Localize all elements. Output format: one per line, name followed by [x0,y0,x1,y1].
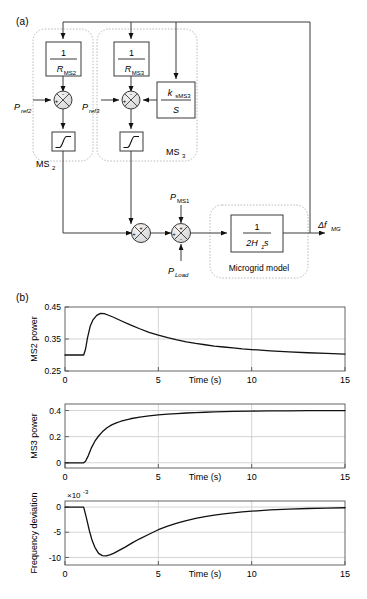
x-tick-label: 10 [247,375,257,385]
x-tick-label: 5 [156,472,161,482]
y-axis-label: MS3 power [29,413,39,459]
microgrid-denominator: 2H [245,238,258,248]
sum-balance-sign-bottom: - [180,236,182,242]
sum-junction-generation: + + [132,224,151,243]
figure-container: (a) (b) 1 R MS2 [0,0,367,599]
y-tick-label: 0 [56,458,61,468]
x-tick-label: 5 [156,569,161,579]
block-diagram: 1 R MS2 1 R MS3 k sMS3 S P ref2 P ref3 [0,0,367,290]
sum-gen-sign-top: + [139,225,143,231]
signal-pload-sub: Load [175,272,189,278]
y-axis-exponent-superscript: -3 [83,489,89,495]
droop-ms2-numerator: 1 [61,48,66,58]
x-axis-label: Time (s) [189,569,222,579]
x-tick-label: 0 [62,375,67,385]
y-axis-label: Frequency deviation [29,492,39,573]
droop-ms3-denominator: R [125,64,132,74]
y-tick-label: 0.4 [49,406,61,416]
microgrid-denominator-tail: s [264,238,269,248]
signal-output-df-sub: MG [331,226,341,232]
group-label-ms3: MS [166,147,180,157]
sum-junction-ms2: - + [54,91,72,109]
secondary-numerator-sub: sMS3 [175,93,191,99]
x-tick-label: 10 [247,569,257,579]
plot-frame [65,404,345,468]
plots-panel: 0.250.350.45051015Time (s)MS2 power00.20… [0,289,367,599]
y-tick-label: 0.35 [44,334,61,344]
chart-2: 00.20.4051015Time (s)MS3 power [29,404,350,482]
signal-pms1: P [170,192,176,202]
y-axis-label: MS2 power [29,316,39,362]
signal-pms1-sub: MS1 [177,198,190,204]
signal-pref3-sub: ref3 [89,108,100,114]
droop-ms3-numerator: 1 [129,48,134,58]
sum-balance-sign-top: + [179,225,183,231]
x-tick-label: 10 [247,472,257,482]
saturation-block-ms3 [120,132,143,151]
group-label-ms2-sub: 2 [52,165,56,171]
chart-3: 0-5-10051015Time (s)Frequency deviation×… [29,489,350,579]
signal-pref3: P [82,102,88,112]
signal-pref2-sub: ref2 [21,108,32,114]
droop-ms2-denominator-sub: MS2 [64,70,77,76]
x-tick-label: 0 [62,472,67,482]
sum-ms2-sign-top: - [62,91,64,97]
x-axis-label: Time (s) [189,375,222,385]
microgrid-caption: Microgrid model [229,263,290,273]
chart-1: 0.250.350.45051015Time (s)MS2 power [29,302,350,385]
signal-pref2: P [14,102,20,112]
x-tick-label: 15 [340,375,350,385]
saturation-block-ms2 [52,132,75,151]
data-series-line [65,507,345,556]
droop-ms3-denominator-sub: MS3 [132,70,145,76]
secondary-numerator: k [168,88,173,98]
y-tick-label: -5 [53,527,61,537]
signal-output-df: Δf [317,220,328,230]
sum-ms3-sign-top: - [130,91,132,97]
sum-gen-sign-left: + [132,231,136,237]
y-tick-label: -10 [49,553,62,563]
sum-junction-balance: + + - [172,224,191,243]
x-tick-label: 15 [340,472,350,482]
droop-ms2-denominator: R [57,64,64,74]
sum-balance-sign-left: + [172,231,176,237]
group-label-ms2: MS [36,159,50,169]
y-tick-label: 0.25 [44,366,61,376]
x-tick-label: 15 [340,569,350,579]
sum-ms3-sign-left: + [123,98,127,104]
y-tick-label: 0 [56,502,61,512]
microgrid-numerator: 1 [254,222,259,232]
secondary-denominator: S [173,105,179,115]
link-ms2-output-to-bus [63,151,132,233]
y-tick-label: 0.45 [44,302,61,312]
group-label-ms3-sub: 3 [182,153,186,159]
y-axis-exponent: ×10 [67,491,81,500]
x-tick-label: 5 [156,375,161,385]
y-tick-label: 0.2 [49,432,61,442]
x-axis-label: Time (s) [189,472,222,482]
data-series-line [65,313,345,355]
signal-pload: P [168,266,174,276]
x-tick-label: 0 [62,569,67,579]
sum-junction-ms3: - + [122,91,140,109]
sum-ms2-sign-left: + [55,98,59,104]
